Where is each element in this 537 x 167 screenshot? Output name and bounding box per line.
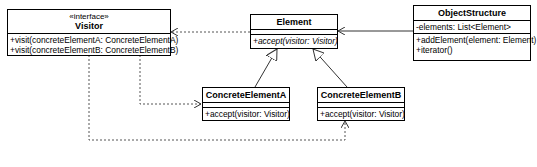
- class-visitor[interactable]: «interface» Visitor +visit(concreteEleme…: [7, 9, 171, 56]
- concreteb-op: +accept(visitor: Visitor): [320, 109, 402, 119]
- concreteb-name: ConcreteElementB: [318, 88, 404, 103]
- class-concreteelementa[interactable]: ConcreteElementA +accept(visitor: Visito…: [202, 87, 290, 121]
- element-operations: +accept(visitor: Visitor): [251, 34, 337, 47]
- objectstructure-op: +addElement(element: Element): [416, 35, 528, 45]
- visitor-stereotype: «interface»: [8, 12, 170, 21]
- visitor-op: +visit(concreteElementB: ConcreteElement…: [10, 45, 168, 55]
- objectstructure-attributes: -elements: List<Element>: [414, 21, 530, 33]
- objectstructure-operations: +addElement(element: Element) +iterator(…: [414, 33, 530, 56]
- element-op: +accept(visitor: Visitor): [253, 36, 335, 46]
- concretea-op: +accept(visitor: Visitor): [205, 109, 287, 119]
- class-element[interactable]: Element +accept(visitor: Visitor): [250, 14, 338, 49]
- objectstructure-name: ObjectStructure: [414, 6, 530, 21]
- visitor-operations: +visit(concreteElementA: ConcreteElement…: [8, 34, 170, 56]
- objectstructure-op: +iterator(): [416, 45, 528, 55]
- generalization-a-element: [255, 49, 277, 87]
- class-concreteelementb[interactable]: ConcreteElementB +accept(visitor: Visito…: [317, 87, 405, 121]
- visitor-name: Visitor: [75, 21, 103, 31]
- concretea-name: ConcreteElementA: [203, 88, 289, 103]
- class-objectstructure[interactable]: ObjectStructure -elements: List<Element>…: [413, 5, 531, 61]
- dependency-visitor-concretea: [140, 55, 201, 104]
- objectstructure-attr: -elements: List<Element>: [416, 22, 528, 32]
- visitor-op: +visit(concreteElementA: ConcreteElement…: [10, 35, 168, 45]
- concreteb-operations: +accept(visitor: Visitor): [318, 107, 404, 120]
- element-name: Element: [251, 15, 337, 30]
- class-visitor-header: «interface» Visitor: [8, 10, 170, 34]
- generalization-b-element: [313, 49, 347, 87]
- concretea-operations: +accept(visitor: Visitor): [203, 107, 289, 120]
